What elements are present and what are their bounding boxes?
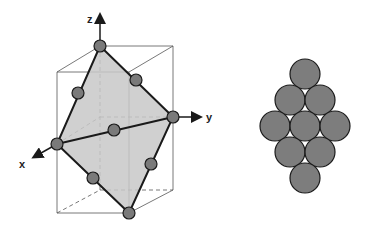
x-axis-label: x xyxy=(19,158,26,170)
diagram-canvas: z y x xyxy=(0,0,371,230)
z-axis-label: z xyxy=(87,13,93,25)
close-packed-spheres xyxy=(260,59,350,193)
crystal-plane-diagram: z y x xyxy=(0,0,371,230)
y-axis-label: y xyxy=(206,111,213,123)
